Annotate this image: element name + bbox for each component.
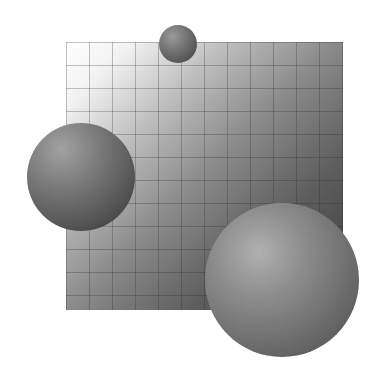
medium-sphere [27,123,135,231]
abstract-scene [0,0,382,377]
small-sphere [159,25,197,63]
large-sphere [205,203,359,357]
